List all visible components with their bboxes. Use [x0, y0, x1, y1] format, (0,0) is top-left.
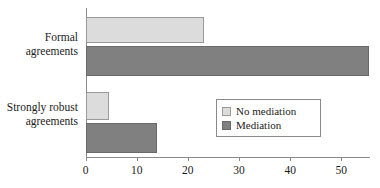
bar-formal-agreements-mediation: [86, 46, 370, 76]
x-axis-tick-label: 30: [233, 164, 245, 176]
bar-strongly-robust-agreements-mediation: [86, 123, 158, 153]
x-axis-tick-mark: [86, 157, 87, 161]
legend-label-mediation: Mediation: [236, 119, 281, 131]
x-axis-tick-label: 20: [182, 164, 194, 176]
category-label-line-1: Strongly robust: [7, 101, 78, 115]
legend: No mediation Mediation: [216, 99, 321, 137]
legend-item-no-mediation: No mediation: [222, 104, 315, 118]
x-axis-tick-mark: [341, 157, 342, 161]
legend-label-no-mediation: No mediation: [236, 105, 296, 117]
bar-chart: Formal agreements Strongly robust agreem…: [0, 0, 380, 188]
x-axis-tick-label: 50: [336, 164, 348, 176]
x-axis-tick-label: 0: [83, 164, 89, 176]
category-label-line-1: Formal: [45, 31, 78, 45]
legend-swatch-icon-mediation: [222, 121, 231, 130]
x-axis-tick-label: 40: [284, 164, 296, 176]
x-axis-tick-label: 10: [131, 164, 143, 176]
x-axis-tick-mark: [137, 157, 138, 161]
category-label-line-2: agreements: [26, 45, 78, 59]
x-axis-tick-mark: [188, 157, 189, 161]
bar-strongly-robust-agreements-no-mediation: [86, 92, 110, 120]
bar-formal-agreements-no-mediation: [86, 17, 205, 43]
x-axis-line: [86, 157, 371, 158]
x-axis-tick-mark: [290, 157, 291, 161]
category-label-line-2: agreements: [26, 115, 78, 129]
legend-item-mediation: Mediation: [222, 118, 315, 132]
x-axis-tick-mark: [239, 157, 240, 161]
legend-swatch-icon-no-mediation: [222, 107, 231, 116]
